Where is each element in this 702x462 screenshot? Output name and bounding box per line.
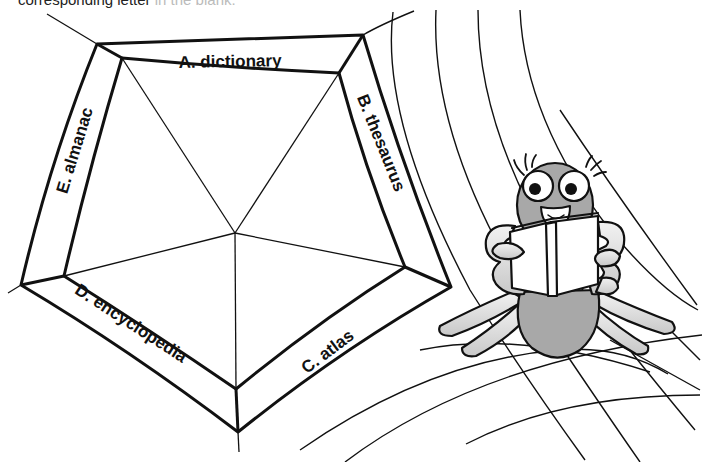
spider-web-diagram: A. dictionary B. thesaurus C. atlas D. e…	[0, 0, 702, 462]
web-spokes	[8, 14, 405, 452]
spider-illustration	[439, 154, 674, 358]
spider-abdomen	[518, 290, 599, 358]
label-b-thesaurus: B. thesaurus	[353, 92, 409, 195]
label-a-dictionary: A. dictionary	[178, 51, 282, 72]
